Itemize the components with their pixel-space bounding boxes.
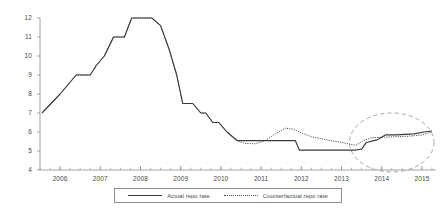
y-tick-label: 8: [16, 91, 32, 98]
legend-item-actual-repo-rate: Actual repo rate: [128, 193, 210, 199]
x-tick-label: 2014: [365, 176, 399, 183]
x-tick-label: 2010: [204, 176, 238, 183]
legend-label-actual-repo-rate: Actual repo rate: [167, 193, 210, 199]
x-tick-label: 2011: [244, 176, 278, 183]
legend-label-counterfactual-repo-rate: Counterfactual repo rate: [263, 193, 328, 199]
x-tick-label: 2015: [405, 176, 439, 183]
repo-rate-chart-figure: 456789101112 200620072008200920102011201…: [0, 0, 441, 213]
x-tick-label: 2008: [124, 176, 158, 183]
y-tick-label: 11: [16, 34, 32, 41]
y-tick-label: 10: [16, 53, 32, 60]
series-line-counterfactual-repo-rate: [42, 18, 432, 145]
y-tick-label: 12: [16, 15, 32, 22]
y-tick-label: 7: [16, 110, 32, 117]
y-tick-label: 6: [16, 129, 32, 136]
legend-item-counterfactual-repo-rate: Counterfactual repo rate: [224, 193, 328, 199]
y-tick-label: 9: [16, 72, 32, 79]
x-tick-label: 2006: [43, 176, 77, 183]
y-tick-label: 4: [16, 167, 32, 174]
chart-legend: Actual repo rate Counterfactual repo rat…: [114, 188, 342, 203]
legend-dotted-line-icon: [224, 193, 258, 199]
x-tick-label: 2009: [164, 176, 198, 183]
highlight-ellipse: [350, 113, 434, 172]
x-tick-label: 2007: [83, 176, 117, 183]
y-axis-ticks: [37, 18, 40, 170]
legend-solid-line-icon: [128, 193, 162, 199]
x-tick-label: 2012: [284, 176, 318, 183]
y-tick-label: 5: [16, 148, 32, 155]
series-line-actual-repo-rate: [42, 18, 432, 150]
axes-group: [40, 18, 436, 170]
x-tick-label: 2013: [325, 176, 359, 183]
